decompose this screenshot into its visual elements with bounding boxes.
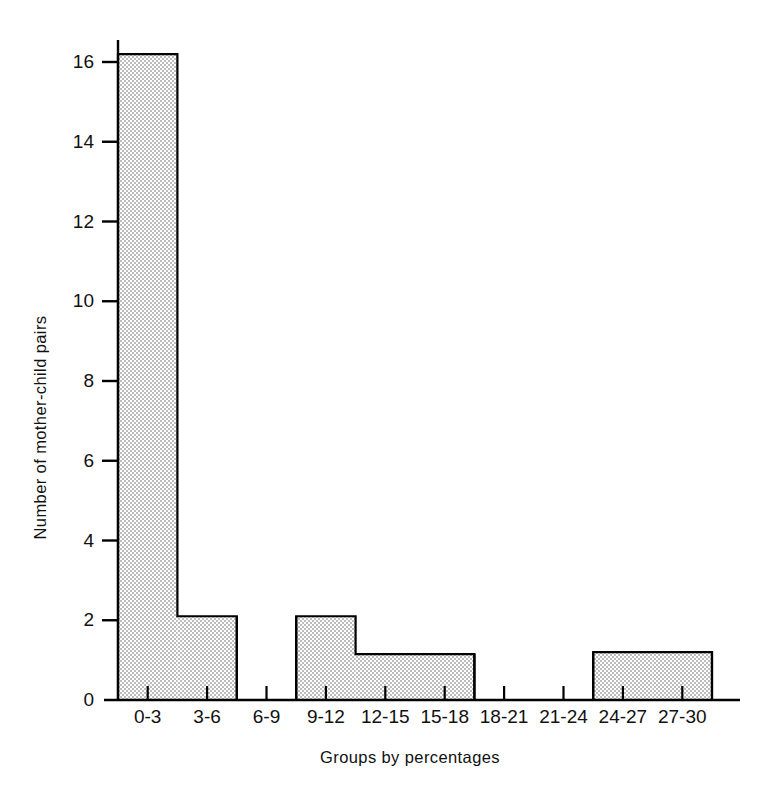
x-tick-label: 27-30: [637, 706, 727, 727]
y-axis-ticks: [102, 62, 117, 620]
axis-lines: [104, 40, 740, 700]
x-axis-title: Groups by percentages: [180, 748, 640, 767]
bar-series: [118, 54, 712, 700]
histogram-figure: Number of mother-child pairs 02468101214…: [0, 0, 773, 792]
bar-outline: [118, 54, 712, 700]
bar: [118, 54, 177, 700]
plot-area: [0, 0, 773, 792]
